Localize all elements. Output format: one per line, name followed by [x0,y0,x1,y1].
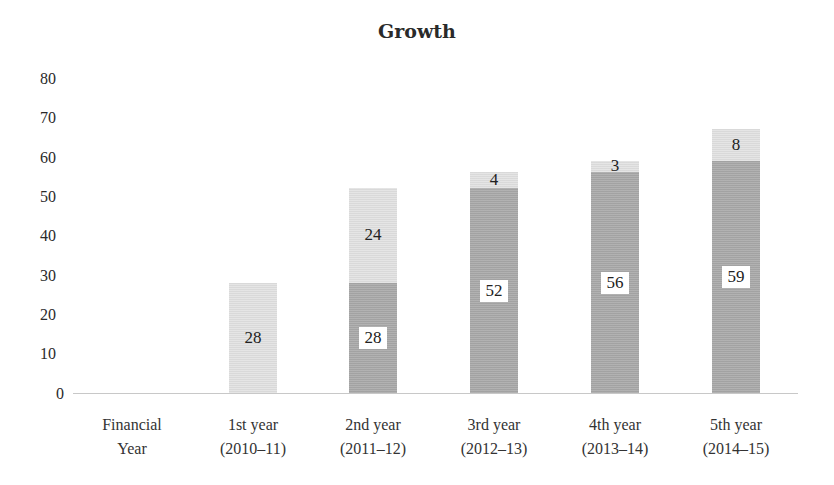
x-tick-label: 4th year (2013–14) [555,413,675,461]
data-label: 24 [358,225,388,245]
x-tick-label: Financial Year [72,413,192,461]
y-tick-label: 10 [40,345,70,363]
data-label: 56 [601,272,629,294]
x-tick-label: 2nd year (2011–12) [313,413,433,461]
data-label: 28 [359,327,387,349]
y-tick-label: 80 [40,70,70,88]
x-tick-label: 3rd year (2012–13) [434,413,554,461]
y-tick-label: 20 [40,306,70,324]
data-label: 4 [479,170,509,190]
y-tick-label: 30 [40,267,70,285]
y-tick-label: 0 [56,385,86,403]
y-tick-label: 70 [40,109,70,127]
x-tick-label: 1st year (2010–11) [193,413,313,461]
data-label: 59 [722,266,750,288]
x-axis-line [73,393,798,394]
y-tick-label: 50 [40,188,70,206]
data-label: 3 [600,156,630,176]
x-tick-label: 5th year (2014–15) [676,413,796,461]
data-label: 8 [721,135,751,155]
data-label: 28 [238,328,268,348]
y-tick-label: 40 [40,227,70,245]
data-label: 52 [480,280,508,302]
y-tick-label: 60 [40,149,70,167]
chart-title: Growth [0,20,834,42]
